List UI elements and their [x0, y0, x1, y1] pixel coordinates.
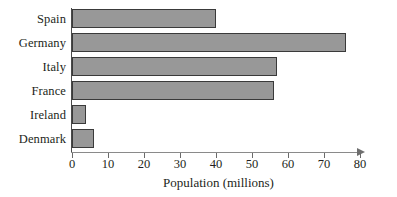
- x-axis-title: Population (millions): [0, 176, 397, 189]
- category-label: Italy: [43, 61, 66, 74]
- bar: [72, 33, 346, 52]
- bar: [72, 9, 216, 28]
- x-axis-tick-label: 0: [69, 158, 75, 171]
- x-axis-line: [71, 152, 359, 153]
- category-label: Spain: [37, 13, 66, 26]
- x-axis-tick-label: 40: [210, 158, 223, 171]
- plot-area: SpainGermanyItalyFranceIrelandDenmark 01…: [0, 0, 397, 197]
- category-label: France: [31, 85, 66, 98]
- bar: [72, 81, 274, 100]
- bar-chart: SpainGermanyItalyFranceIrelandDenmark 01…: [0, 0, 397, 197]
- category-label: Germany: [19, 37, 66, 50]
- x-axis-tick-label: 80: [354, 158, 367, 171]
- category-label: Denmark: [19, 133, 66, 146]
- bar: [72, 105, 86, 124]
- x-axis-tick-label: 10: [102, 158, 115, 171]
- x-axis-tick-label: 70: [318, 158, 331, 171]
- bar: [72, 57, 277, 76]
- x-axis-tick-label: 60: [282, 158, 295, 171]
- x-axis-tick-label: 30: [174, 158, 187, 171]
- x-axis-tick-label: 50: [246, 158, 259, 171]
- x-axis-tick-label: 20: [138, 158, 151, 171]
- bar: [72, 129, 94, 148]
- category-label: Ireland: [30, 109, 66, 122]
